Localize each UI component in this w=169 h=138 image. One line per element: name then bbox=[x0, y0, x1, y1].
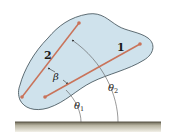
rigid-body bbox=[19, 14, 153, 110]
line-1-endpoint-right bbox=[138, 42, 142, 46]
line-2-label: 2 bbox=[44, 49, 52, 62]
beta-label: β bbox=[52, 71, 59, 82]
ground bbox=[15, 122, 161, 132]
line-2-endpoint-top bbox=[77, 21, 81, 25]
line-1-label: 1 bbox=[117, 41, 125, 54]
rigid-body-diagram: 2 1 β θ1 θ2 bbox=[0, 0, 169, 138]
line-1-endpoint-left bbox=[43, 95, 47, 99]
theta2-subscript: 2 bbox=[114, 87, 118, 95]
theta2-label: θ2 bbox=[108, 82, 118, 95]
theta1-label: θ1 bbox=[74, 100, 84, 113]
theta1-subscript: 1 bbox=[80, 105, 84, 113]
line-2-endpoint-bottom bbox=[20, 95, 24, 99]
